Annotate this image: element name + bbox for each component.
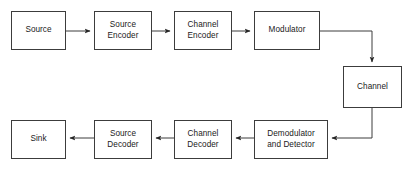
block-channel: Channel xyxy=(343,66,402,108)
block-sink: Sink xyxy=(11,120,66,159)
block-source-encoder: Source Encoder xyxy=(94,11,152,50)
block-channel-label: Channel xyxy=(355,82,390,93)
block-modulator: Modulator xyxy=(254,11,320,50)
block-modulator-label: Modulator xyxy=(267,25,308,36)
block-diagram: Source Source Encoder Channel Encoder Mo… xyxy=(0,0,410,170)
block-channel-encoder: Channel Encoder xyxy=(174,11,232,50)
block-source-decoder: Source Decoder xyxy=(94,120,152,159)
block-channel-decoder-label: Channel Decoder xyxy=(185,129,220,150)
block-channel-encoder-label: Channel Encoder xyxy=(186,20,221,41)
connector-channel-to-demodulator xyxy=(332,108,372,138)
block-source-label: Source xyxy=(23,25,53,36)
block-source-decoder-label: Source Decoder xyxy=(105,129,140,150)
block-source: Source xyxy=(11,11,66,50)
block-demodulator-and-detector-label: Demodulator and Detector xyxy=(265,129,316,150)
block-demodulator-and-detector: Demodulator and Detector xyxy=(254,120,328,159)
connector-modulator-to-channel xyxy=(320,31,372,62)
block-source-encoder-label: Source Encoder xyxy=(106,20,141,41)
block-sink-label: Sink xyxy=(28,134,48,145)
block-channel-decoder: Channel Decoder xyxy=(174,120,232,159)
